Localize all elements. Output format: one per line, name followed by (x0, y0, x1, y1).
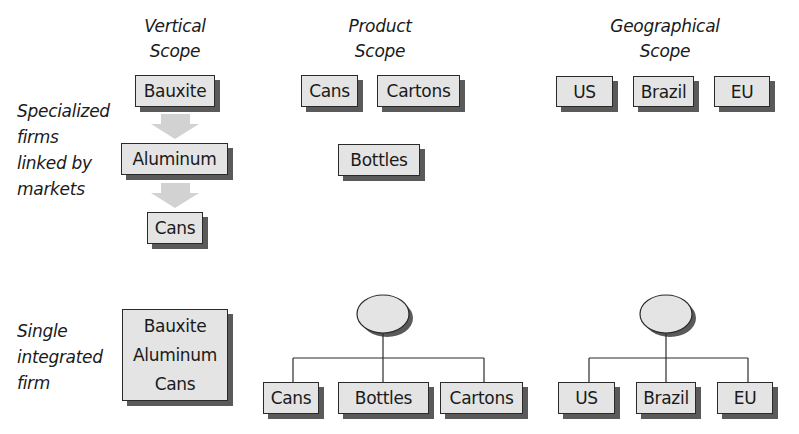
integrated-vertical-stage: Cans (155, 370, 196, 399)
down-arrow-icon (151, 183, 199, 208)
diagram-connectors (0, 0, 799, 434)
spec-product-cartons-box: Cartons (377, 75, 460, 107)
spec-geo-eu-box: EU (714, 76, 770, 107)
integrated-geo-eu-box: EU (717, 382, 773, 414)
spec-product-bottles-box: Bottles (338, 144, 420, 176)
integrated-product-cartons-box: Cartons (440, 382, 523, 414)
integrated-vertical-stage: Bauxite (144, 312, 207, 341)
spec-geo-us-box: US (556, 76, 613, 107)
spec-vertical-cans-box: Cans (147, 212, 203, 244)
spec-geo-brazil-box: Brazil (633, 76, 694, 107)
spec-product-cans-box: Cans (301, 75, 358, 107)
integrated-vertical-box: Bauxite Aluminum Cans (122, 309, 228, 401)
spec-vertical-bauxite-box: Bauxite (135, 75, 215, 107)
down-arrow-icon (151, 114, 199, 139)
integrated-vertical-stage: Aluminum (133, 341, 217, 370)
parent-firm-ellipse (357, 295, 409, 333)
integrated-product-cans-box: Cans (263, 382, 319, 414)
integrated-geo-brazil-box: Brazil (636, 382, 696, 414)
parent-firm-ellipse (640, 295, 692, 333)
spec-vertical-aluminum-box: Aluminum (121, 143, 228, 175)
integrated-product-bottles-box: Bottles (338, 382, 429, 414)
integrated-geo-us-box: US (558, 382, 615, 414)
